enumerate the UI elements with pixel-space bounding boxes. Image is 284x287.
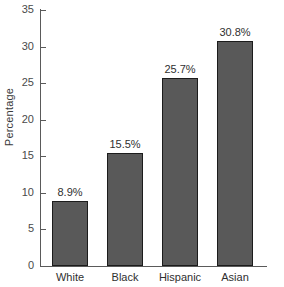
- bar: [52, 201, 88, 266]
- bar-value-label: 25.7%: [150, 64, 210, 75]
- y-axis-tick-label: 15: [0, 150, 34, 161]
- y-axis-tick: [41, 83, 46, 84]
- y-axis-tick-label: 5: [0, 223, 34, 234]
- y-axis-line: [40, 9, 41, 267]
- y-axis-tick-label: 10: [0, 187, 34, 198]
- y-axis-tick: [41, 229, 46, 230]
- bar-value-label: 8.9%: [40, 187, 100, 198]
- y-axis-tick: [41, 120, 46, 121]
- y-axis-tick-label: 20: [0, 114, 34, 125]
- bar-value-label: 15.5%: [95, 139, 155, 150]
- y-axis-tick: [41, 156, 46, 157]
- x-axis-line: [40, 266, 267, 267]
- bar: [162, 78, 198, 266]
- y-axis-tick: [41, 266, 46, 267]
- bar-chart: Percentage 05101520253035 8.9%15.5%25.7%…: [0, 0, 284, 287]
- bar: [217, 41, 253, 266]
- y-axis-tick-label: 0: [0, 260, 34, 271]
- x-axis-category-label: Asian: [200, 272, 270, 283]
- y-axis-tick: [41, 47, 46, 48]
- bar-value-label: 30.8%: [205, 27, 265, 38]
- y-axis-tick-label: 30: [0, 41, 34, 52]
- y-axis-tick-label: 25: [0, 77, 34, 88]
- y-axis-tick-label: 35: [0, 4, 34, 15]
- bar: [107, 153, 143, 266]
- y-axis-tick: [41, 10, 46, 11]
